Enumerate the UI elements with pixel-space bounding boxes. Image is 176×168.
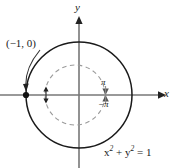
left-tick-arrowhead-up [43, 87, 48, 92]
figure-canvas [0, 0, 176, 168]
circle-equation-label: x2 + y2 = 1 [104, 145, 151, 158]
y-axis [75, 16, 82, 168]
x-axis-label: x [164, 88, 169, 99]
point-coordinate-label: (−1, 0) [6, 38, 36, 49]
unit-circle-figure: (−1, 0) x y π −π x2 + y2 = 1 [0, 0, 176, 168]
y-axis-label: y [75, 2, 80, 13]
equation-plus: + [113, 146, 125, 158]
pi-positive-label: π [101, 78, 106, 87]
equation-rhs: 1 [146, 146, 152, 158]
point-marker-minus-one-zero [23, 92, 29, 98]
y-axis-arrowhead [75, 16, 82, 24]
left-tick-arrowhead-down [43, 99, 48, 104]
equation-equals: = [134, 146, 146, 158]
pi-negative-label: −π [98, 100, 109, 109]
leader-arrowhead [23, 84, 29, 92]
